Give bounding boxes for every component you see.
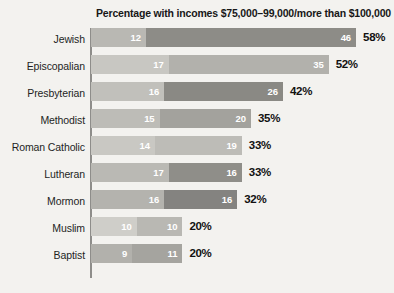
- segment-value-label: 26: [268, 85, 278, 98]
- bar-segment-higher-income: 11: [132, 244, 182, 263]
- segment-value-label: 16: [226, 166, 236, 179]
- bar-segment-higher-income: 46: [146, 28, 356, 47]
- chart-title: Percentage with incomes $75,000–99,000/m…: [96, 7, 391, 20]
- bar-segment-higher-income: 16: [169, 163, 242, 182]
- segment-value-label: 12: [130, 31, 140, 44]
- bar-segment-lower-income: 15: [91, 109, 160, 128]
- bar-segment-lower-income: 12: [91, 28, 146, 47]
- total-value-label: 58%: [363, 31, 385, 43]
- bar-row: Mormon161632%: [0, 190, 394, 217]
- segment-value-label: 17: [153, 166, 163, 179]
- segment-value-label: 16: [222, 193, 232, 206]
- bar-track: 1735: [91, 55, 329, 74]
- segment-value-label: 35: [313, 58, 323, 71]
- segment-value-label: 19: [226, 139, 236, 152]
- bar-row: Roman Catholic141933%: [0, 136, 394, 163]
- segment-value-label: 20: [236, 112, 246, 125]
- bar-row: Baptist91120%: [0, 244, 394, 271]
- total-value-label: 35%: [258, 112, 280, 124]
- category-label: Muslim: [0, 222, 85, 234]
- bar-row: Episcopalian173552%: [0, 55, 394, 82]
- bar-segment-higher-income: 10: [137, 217, 183, 236]
- total-value-label: 33%: [249, 166, 271, 178]
- bar-segment-higher-income: 16: [164, 190, 237, 209]
- total-value-label: 32%: [244, 193, 266, 205]
- bar-segment-lower-income: 10: [91, 217, 137, 236]
- bar-row: Lutheran171633%: [0, 163, 394, 190]
- category-label: Presbyterian: [0, 87, 85, 99]
- bar-segment-lower-income: 14: [91, 136, 155, 155]
- segment-value-label: 46: [341, 31, 351, 44]
- bar-segment-lower-income: 16: [91, 190, 164, 209]
- bar-segment-higher-income: 35: [169, 55, 329, 74]
- segment-value-label: 10: [121, 220, 131, 233]
- bar-segment-higher-income: 20: [160, 109, 251, 128]
- total-value-label: 33%: [249, 139, 271, 151]
- bar-row: Muslim101020%: [0, 217, 394, 244]
- bar-row: Jewish124658%: [0, 28, 394, 55]
- bar-track: 1520: [91, 109, 251, 128]
- bar-segment-higher-income: 19: [155, 136, 242, 155]
- bar-track: 911: [91, 244, 182, 263]
- total-value-label: 52%: [336, 58, 358, 70]
- bar-track: 1419: [91, 136, 242, 155]
- bar-row: Presbyterian162642%: [0, 82, 394, 109]
- bar-track: 1616: [91, 190, 237, 209]
- category-label: Roman Catholic: [0, 141, 85, 153]
- total-value-label: 20%: [189, 220, 211, 232]
- bar-row: Methodist152035%: [0, 109, 394, 136]
- bar-segment-higher-income: 26: [164, 82, 283, 101]
- category-label: Lutheran: [0, 168, 85, 180]
- category-label: Jewish: [0, 33, 85, 45]
- bar-track: 1246: [91, 28, 356, 47]
- bar-segment-lower-income: 17: [91, 163, 169, 182]
- segment-value-label: 16: [149, 85, 159, 98]
- total-value-label: 20%: [189, 247, 211, 259]
- segment-value-label: 10: [167, 220, 177, 233]
- segment-value-label: 9: [122, 247, 127, 260]
- bar-segment-lower-income: 9: [91, 244, 132, 263]
- bar-track: 1716: [91, 163, 242, 182]
- bar-track: 1010: [91, 217, 182, 236]
- segment-value-label: 14: [140, 139, 150, 152]
- segment-value-label: 15: [144, 112, 154, 125]
- bar-segment-lower-income: 17: [91, 55, 169, 74]
- category-label: Baptist: [0, 249, 85, 261]
- segment-value-label: 17: [153, 58, 163, 71]
- category-label: Mormon: [0, 195, 85, 207]
- segment-value-label: 11: [168, 247, 178, 260]
- category-label: Methodist: [0, 114, 85, 126]
- bar-segment-lower-income: 16: [91, 82, 164, 101]
- total-value-label: 42%: [290, 85, 312, 97]
- plot-area: Jewish124658%Episcopalian173552%Presbyte…: [0, 28, 394, 283]
- segment-value-label: 16: [149, 193, 159, 206]
- stacked-bar-chart: Percentage with incomes $75,000–99,000/m…: [0, 0, 394, 293]
- bar-track: 1626: [91, 82, 283, 101]
- category-label: Episcopalian: [0, 60, 85, 72]
